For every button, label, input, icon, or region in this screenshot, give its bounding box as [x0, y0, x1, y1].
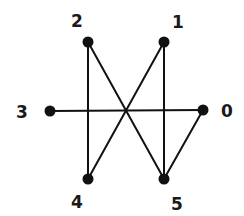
node-label-3: 3 [16, 102, 28, 122]
node-label-1: 1 [172, 12, 184, 32]
node-label-2: 2 [71, 11, 83, 31]
node-label-0: 0 [221, 101, 233, 121]
node-1 [159, 37, 170, 48]
graph-diagram: 012345 [0, 0, 244, 216]
edge-0-5 [164, 110, 203, 179]
edge-group [50, 42, 203, 179]
node-label-5: 5 [171, 194, 183, 214]
node-5 [159, 174, 170, 185]
node-4 [83, 174, 94, 185]
graph-canvas: 012345 [0, 0, 244, 216]
node-2 [83, 37, 94, 48]
node-3 [45, 106, 56, 117]
node-label-4: 4 [71, 192, 83, 212]
node-0 [198, 105, 209, 116]
